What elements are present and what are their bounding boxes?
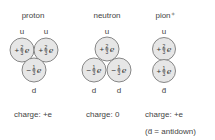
neutron-charge: charge: 0: [86, 110, 119, 119]
proton-label-u1: u: [20, 27, 24, 36]
neutron-label-u: u: [105, 27, 109, 36]
neutron-d1-charge: −13e: [86, 65, 101, 76]
neutron-label-d2: d: [117, 86, 121, 95]
pion-label-dbar: d̄: [162, 86, 166, 95]
pion-dbar-charge: +13e: [156, 66, 171, 77]
proton-u2-charge: +23e: [38, 45, 53, 56]
pion-label-u: u: [162, 27, 166, 36]
proton-title: proton: [22, 11, 45, 20]
proton-label-u2: u: [44, 27, 48, 36]
neutron-d2-charge: −13e: [111, 65, 126, 76]
proton-u1-charge: +23e: [14, 45, 29, 56]
pion-title: pion⁺: [155, 11, 174, 20]
neutron-title: neutron: [93, 11, 120, 20]
pion-u-charge: +23e: [156, 44, 171, 55]
proton-label-d: d: [32, 86, 36, 95]
proton-d-charge: −13e: [26, 65, 41, 76]
pion-charge: charge: +e: [145, 110, 183, 119]
neutron-u-charge: +23e: [99, 44, 114, 55]
antidown-footnote: (d̄ = antidown): [145, 127, 196, 136]
neutron-label-d1: d: [92, 86, 96, 95]
proton-charge: charge: +e: [14, 110, 52, 119]
